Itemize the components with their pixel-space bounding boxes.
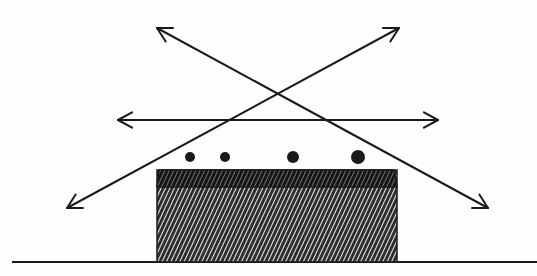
- diagram-canvas: Hand-drawn sketch: hatched block (with d…: [0, 0, 537, 276]
- diagram-svg: [0, 0, 537, 276]
- dots-row: [185, 150, 365, 164]
- dot-1: [185, 152, 195, 162]
- dot-4: [351, 150, 365, 164]
- dot-3: [287, 151, 299, 163]
- hatched-block: [157, 170, 397, 262]
- dot-2: [220, 152, 230, 162]
- horizontal-arrow: [118, 112, 438, 127]
- block-top-layer: [157, 170, 397, 187]
